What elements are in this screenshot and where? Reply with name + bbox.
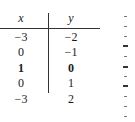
tick-mark xyxy=(124,96,127,97)
header-divider xyxy=(0,28,100,29)
header-x: x xyxy=(6,12,36,25)
tick-mark xyxy=(124,16,127,17)
cell-x-0: −3 xyxy=(6,31,36,44)
cell-y-0: −2 xyxy=(56,31,86,44)
cell-x-4: −3 xyxy=(6,93,36,106)
tick-mark xyxy=(123,85,128,87)
tick-mark xyxy=(123,45,128,47)
tick-mark xyxy=(124,116,127,117)
cell-y-4: 2 xyxy=(56,93,86,106)
cell-x-1: 0 xyxy=(6,46,36,59)
tick-mark xyxy=(124,36,127,37)
tick-mark xyxy=(124,106,127,107)
xy-value-table: x y −3 −2 0 −1 1 0 0 1 −3 2 xyxy=(0,0,100,122)
cell-y-2: 0 xyxy=(56,62,86,75)
tick-mark xyxy=(123,66,128,68)
column-divider xyxy=(48,13,49,93)
header-y: y xyxy=(56,12,86,25)
tick-mark xyxy=(124,56,127,57)
cropped-axis-ticks xyxy=(122,10,135,122)
cell-x-3: 0 xyxy=(6,77,36,90)
cell-y-3: 1 xyxy=(56,77,86,90)
cell-y-1: −1 xyxy=(56,46,86,59)
tick-mark xyxy=(124,76,127,77)
cell-x-2: 1 xyxy=(6,62,36,75)
tick-mark xyxy=(124,26,127,27)
